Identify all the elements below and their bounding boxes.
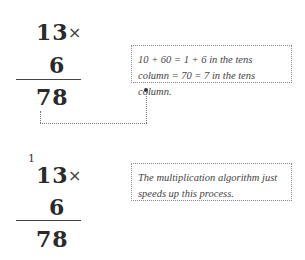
multiplier: 6: [49, 196, 65, 218]
connector-line: [40, 111, 41, 123]
multiplier: 6: [49, 54, 65, 76]
carry-digit: 1: [28, 153, 35, 164]
annotation-note: The multiplication algorithm just speeds…: [131, 163, 292, 201]
times-symbol: ×: [68, 25, 81, 41]
connector-line: [40, 123, 147, 124]
multiplicand: 13: [36, 164, 69, 186]
sum-rule: [16, 79, 81, 80]
connector-line: [146, 91, 147, 123]
multiplicand: 13: [36, 21, 69, 43]
sum-rule: [16, 220, 81, 221]
product: 78: [36, 228, 69, 250]
times-symbol: ×: [68, 168, 81, 184]
annotation-note: 10 + 60 = 1 + 6 in the tens column = 70 …: [131, 45, 292, 83]
product: 78: [36, 86, 69, 108]
